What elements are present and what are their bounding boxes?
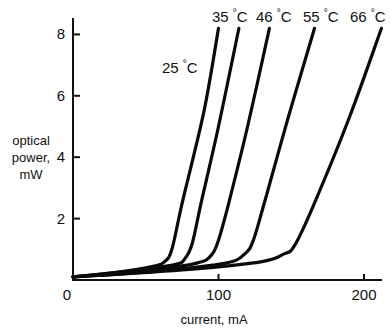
y-ticks: 2468 [57, 25, 80, 226]
x-ticks: 100200 [206, 274, 377, 303]
y-axis-title: optical power, mW [12, 133, 50, 182]
y-tick-label: 6 [57, 87, 65, 104]
y-axis-title-line-3: mW [19, 167, 43, 182]
y-tick-label: 8 [57, 25, 65, 42]
x-tick-label: 200 [351, 286, 376, 303]
y-axis-title-line-2: power, [12, 150, 50, 165]
y-tick-label: 4 [57, 148, 65, 165]
curve-35c [73, 28, 239, 277]
optical-power-vs-current-chart: 2468 100200 25 °C35 °C46 °C55 °C66 °C 0 … [0, 0, 391, 333]
series-label-46c: 46 °C [256, 7, 292, 25]
origin-label: 0 [63, 286, 71, 303]
curve-66c [73, 28, 382, 277]
y-axis-title-line-1: optical [12, 133, 50, 148]
series-label-35c: 35 °C [212, 7, 248, 25]
x-axis-title: current, mA [180, 312, 248, 327]
series-label-25c: 25 °C [162, 58, 198, 76]
x-tick-label: 100 [206, 286, 231, 303]
y-tick-label: 2 [57, 210, 65, 227]
curves [73, 28, 382, 277]
series-labels: 25 °C35 °C46 °C55 °C66 °C [162, 7, 386, 76]
series-label-55c: 55 °C [303, 7, 339, 25]
series-label-66c: 66 °C [350, 7, 386, 25]
